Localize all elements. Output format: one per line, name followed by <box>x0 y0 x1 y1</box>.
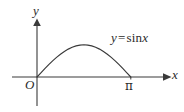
equation-operator: = <box>117 30 127 45</box>
equation-variable: x <box>142 30 148 45</box>
y-axis-arrowhead-icon <box>33 19 41 27</box>
pi-tick-label: π <box>125 80 133 92</box>
sine-curve-path <box>37 45 131 77</box>
y-axis <box>33 19 41 107</box>
sine-graph-figure: y x O π y=sinx <box>0 0 184 112</box>
graph-canvas <box>0 0 184 112</box>
y-axis-label: y <box>33 4 39 17</box>
x-axis <box>12 73 172 81</box>
x-axis-arrowhead-icon <box>163 73 172 81</box>
equation-function-name: sin <box>127 30 143 45</box>
x-axis-label: x <box>172 68 178 81</box>
origin-label: O <box>25 78 34 91</box>
curve-equation-label: y=sinx <box>111 31 148 44</box>
